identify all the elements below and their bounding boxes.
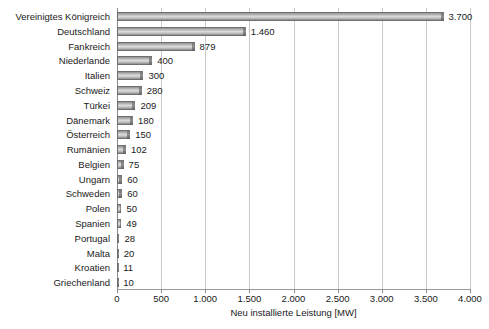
bar — [117, 189, 122, 198]
bar-value-label: 60 — [127, 189, 138, 198]
bar-fill — [117, 189, 122, 198]
bar-value-label: 209 — [140, 101, 156, 110]
bar-value-label: 75 — [129, 160, 140, 169]
bar-value-label: 180 — [138, 116, 154, 125]
bar — [117, 204, 121, 213]
bar — [117, 12, 444, 21]
bar — [117, 263, 118, 272]
bar-fill — [117, 12, 444, 21]
bar-fill — [117, 160, 124, 169]
bar-fill — [117, 145, 126, 154]
bar-fill — [117, 42, 195, 51]
bar — [117, 249, 119, 258]
bar-fill — [117, 130, 130, 139]
bar-fill — [117, 101, 135, 110]
bar — [117, 42, 195, 51]
bar — [117, 278, 118, 287]
bar-fill — [117, 71, 143, 80]
bar-value-label: 10 — [123, 278, 134, 287]
bar-value-label: 879 — [200, 42, 216, 51]
bar — [117, 27, 246, 36]
bar — [117, 219, 121, 228]
bar-value-label: 102 — [131, 145, 147, 154]
bar-row: Griechenland10 — [0, 274, 489, 292]
bar-value-label: 300 — [148, 71, 164, 80]
bar — [117, 130, 130, 139]
bar — [117, 175, 122, 184]
bar — [117, 86, 142, 95]
bar-value-label: 11 — [123, 263, 133, 272]
bar-chart: Vereinigtes Königreich3.700Deutschland1.… — [0, 0, 489, 329]
category-label: Griechenland — [0, 274, 110, 292]
bar — [117, 101, 135, 110]
bar-fill — [117, 175, 122, 184]
bar — [117, 145, 126, 154]
bar-fill — [117, 263, 119, 272]
bar-value-label: 50 — [126, 204, 137, 213]
bar-value-label: 280 — [147, 86, 163, 95]
bar-fill — [117, 204, 121, 213]
bar-value-label: 60 — [127, 175, 138, 184]
bar-value-label: 150 — [135, 130, 151, 139]
bar-fill — [117, 278, 119, 287]
bar-value-label: 28 — [124, 234, 135, 243]
bar — [117, 71, 143, 80]
bar-fill — [117, 27, 246, 36]
bar-fill — [117, 219, 121, 228]
bar — [117, 116, 133, 125]
bar-fill — [117, 116, 133, 125]
x-tick-label: 4.000 — [440, 293, 489, 305]
bar — [117, 160, 124, 169]
bar-fill — [117, 249, 119, 258]
bar — [117, 56, 152, 65]
bar-value-label: 1.460 — [251, 27, 275, 36]
bar-value-label: 400 — [157, 56, 173, 65]
bar-fill — [117, 86, 142, 95]
bar-fill — [117, 234, 119, 243]
bar-value-label: 20 — [124, 249, 135, 258]
bar-value-label: 3.700 — [449, 12, 473, 21]
bar-value-label: 49 — [126, 219, 137, 228]
x-axis-title: Neu installierte Leistung [MW] — [117, 307, 470, 318]
bar — [117, 234, 119, 243]
bar-fill — [117, 56, 152, 65]
